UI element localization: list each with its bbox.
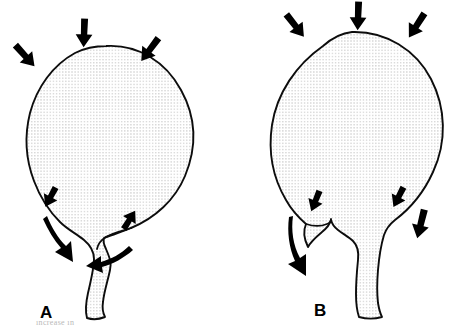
panel-label-b: B [314,301,327,320]
dome-left-arrow-b [280,9,311,42]
anatomical-diagram: A [0,0,476,332]
dome-top-arrow-a [75,18,93,47]
organ-outline-a [27,46,194,319]
dome-top-arrow-b [349,1,367,30]
panel-label-a: A [40,303,53,322]
dome-left-arrow-a [9,40,41,72]
panel-a: A [9,18,193,322]
organ-outline-b [271,32,443,319]
neck-curved-arrow-b [288,216,306,276]
figure-container: A [0,0,476,332]
panel-b: B [271,1,443,320]
outlet-right-arrow-b [409,208,433,241]
dome-right-arrow-b [402,9,432,42]
